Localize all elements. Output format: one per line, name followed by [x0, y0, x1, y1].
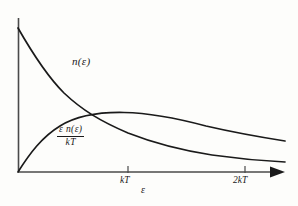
- x-tick-label-kt: kT: [120, 176, 130, 186]
- x-axis-arrowhead: [270, 167, 285, 178]
- fraction-denominator: kT: [57, 137, 84, 148]
- curve-label-n-epsilon: n(ε): [72, 56, 90, 67]
- maxwell-boltzmann-distribution-figure: n(ε) ε n(ε) kT kT 2kT ε: [0, 0, 298, 206]
- x-tick-label-2kt: 2kT: [233, 176, 247, 186]
- plot-area: [0, 0, 298, 206]
- curve-label-epsilon-n-over-kt: ε n(ε) kT: [57, 125, 84, 147]
- x-axis-title: ε: [141, 185, 145, 195]
- fraction-numerator: ε n(ε): [57, 125, 84, 136]
